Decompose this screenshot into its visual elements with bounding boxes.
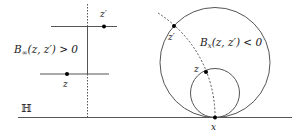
horocycle-outer	[160, 8, 270, 118]
halfplane-label: ℍ	[21, 102, 32, 115]
point-z-prime-left	[102, 25, 106, 29]
label-z-prime-right: z′	[167, 32, 175, 42]
point-x	[213, 116, 217, 120]
point-z-right	[204, 70, 208, 74]
label-x: x	[211, 122, 216, 132]
point-z-prime-right	[172, 24, 176, 28]
busemann-infinity-label: B∞(z, z′) > 0	[13, 43, 78, 57]
point-z-left	[65, 72, 69, 76]
geodesic-arc-dashed	[158, 13, 215, 118]
svg-text:Bx(z, z′) < 0: Bx(z, z′) < 0	[199, 36, 262, 50]
label-z-left: z	[62, 79, 68, 89]
svg-text:B∞(z, z′) > 0: B∞(z, z′) > 0	[13, 43, 78, 57]
label-z-prime-left: z′	[99, 9, 107, 19]
horocycle-inner	[191, 69, 240, 118]
label-z-right: z	[193, 64, 199, 74]
busemann-x-label: Bx(z, z′) < 0	[199, 36, 262, 50]
diagram-canvas: ℍ z′ z B∞(z, z′) > 0 z′ z x Bx(z, z′) < …	[0, 0, 303, 138]
